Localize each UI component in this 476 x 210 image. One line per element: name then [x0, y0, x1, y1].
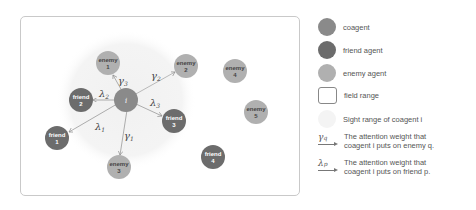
svg-text:i: i	[125, 97, 127, 105]
legend-friend-label: friend agent	[343, 46, 383, 55]
svg-text:friend: friend	[73, 94, 90, 100]
sight-range-swatch-icon	[318, 110, 336, 128]
legend-enemy: enemy agent	[318, 64, 386, 82]
lambda-arrow-icon: λp	[318, 158, 340, 176]
legend-friend: friend agent	[318, 41, 383, 59]
svg-text:enemy: enemy	[109, 161, 129, 167]
legend-coagent: coagent	[318, 18, 370, 36]
legend-lambda: λp The attention weight that coagent i p…	[318, 158, 430, 176]
legend-enemy-label: enemy agent	[343, 69, 386, 78]
friend-node-1: friend 1	[45, 126, 69, 150]
legend-sight-label: Sight range of coagent i	[343, 115, 422, 124]
gamma-arrow-icon: γq	[318, 132, 340, 150]
svg-text:friend: friend	[205, 151, 222, 157]
svg-text:enemy: enemy	[176, 60, 196, 66]
coagent-node: i	[114, 88, 138, 112]
svg-text:friend: friend	[49, 132, 66, 138]
legend-lambda-line2: coagent i puts on friend p.	[344, 167, 430, 176]
svg-text:enemy: enemy	[225, 65, 245, 71]
enemy-node-1: enemy 1	[96, 51, 120, 75]
legend-gamma-line2: coagent i puts on enemy q.	[344, 141, 434, 150]
svg-text:friend: friend	[166, 115, 183, 121]
svg-text:enemy: enemy	[246, 106, 266, 112]
legend-field-label: field range	[344, 91, 379, 100]
legend-gamma-line1: The attention weight that	[344, 132, 434, 141]
enemy-swatch-icon	[318, 64, 336, 82]
svg-text:enemy: enemy	[98, 57, 118, 63]
legend-field: field range	[318, 87, 379, 104]
enemy-node-4: enemy 4	[223, 59, 247, 83]
friend-node-3: friend 3	[162, 109, 186, 133]
enemy-node-3: enemy 3	[107, 155, 131, 179]
enemy-node-2: enemy 2	[174, 54, 198, 78]
legend-sight: Sight range of coagent i	[318, 110, 422, 128]
friend-swatch-icon	[318, 41, 336, 59]
friend-node-2: friend 2	[69, 88, 93, 112]
agent-diagram: γ3 γ2 γ1 λ1 λ2 λ3 i friend 1 friend 2 fr…	[0, 0, 310, 210]
coagent-swatch-icon	[318, 18, 336, 36]
legend-coagent-label: coagent	[343, 23, 370, 32]
field-range-swatch-icon	[318, 87, 337, 104]
legend-lambda-line1: The attention weight that	[344, 158, 430, 167]
legend-gamma: γq The attention weight that coagent i p…	[318, 132, 434, 150]
friend-node-4: friend 4	[201, 145, 225, 169]
enemy-node-5: enemy 5	[244, 100, 268, 124]
